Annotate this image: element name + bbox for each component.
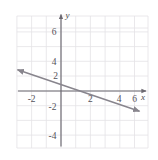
coordinate-plane-figure: y x -2 2 4 6 6 4 2 -2 -4 (0, 0, 158, 160)
y-tick-label--4: -4 (49, 131, 57, 141)
x-tick-label--2: -2 (28, 94, 36, 104)
y-tick-label--2: -2 (49, 102, 57, 112)
x-axis-label: x (140, 92, 145, 102)
x-tick-label-4: 4 (117, 94, 122, 104)
x-tick-label-6: 6 (132, 94, 137, 104)
x-tick-label-2: 2 (88, 94, 93, 104)
y-axis-label: y (65, 10, 70, 20)
y-tick-label-2: 2 (53, 71, 58, 81)
graph-screenshot: y x -2 2 4 6 6 4 2 -2 -4 (0, 0, 158, 160)
y-tick-label-4: 4 (52, 57, 57, 67)
y-tick-label-6: 6 (52, 27, 57, 37)
